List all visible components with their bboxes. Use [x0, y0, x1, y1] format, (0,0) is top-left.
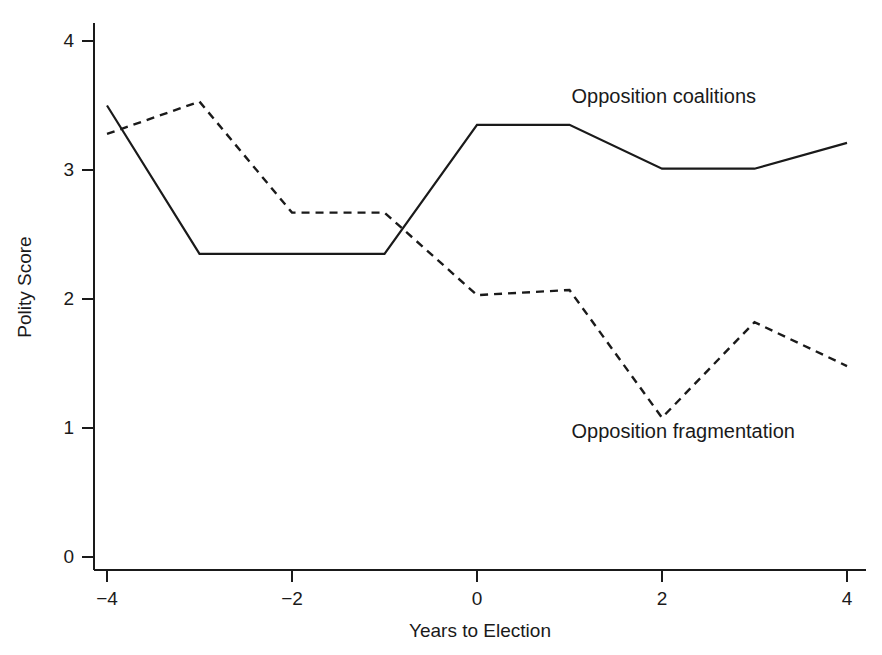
series-line-opposition-coalitions	[107, 106, 847, 254]
y-tick-label: 1	[44, 417, 74, 439]
series-annotation-opposition-coalitions: Opposition coalitions	[572, 85, 757, 108]
y-axis-ticks	[82, 41, 94, 557]
x-tick-label: 2	[657, 588, 668, 610]
series-line-opposition-fragmentation	[107, 102, 847, 418]
y-tick-label: 3	[44, 159, 74, 181]
polity-score-line-chart: 01234 −4−2024 Polity Score Years to Elec…	[0, 0, 882, 655]
x-tick-label: −2	[281, 588, 303, 610]
x-tick-label: −4	[96, 588, 118, 610]
series-annotation-opposition-fragmentation: Opposition fragmentation	[572, 420, 795, 443]
x-axis-ticks	[107, 570, 847, 582]
y-tick-label: 0	[44, 546, 74, 568]
x-tick-label: 0	[472, 588, 483, 610]
x-axis-title: Years to Election	[409, 620, 551, 642]
y-tick-label: 4	[44, 30, 74, 52]
y-axis-title: Polity Score	[14, 236, 36, 337]
x-tick-label: 4	[842, 588, 853, 610]
y-tick-label: 2	[44, 288, 74, 310]
data-series-group	[107, 102, 847, 418]
